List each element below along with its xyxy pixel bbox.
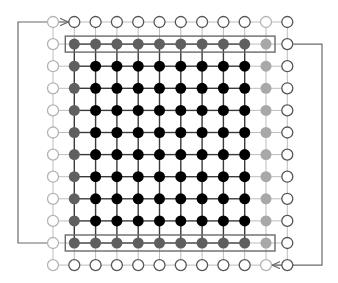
ghost-node bbox=[218, 17, 229, 28]
interior-node bbox=[197, 149, 208, 160]
ghost-node bbox=[197, 260, 208, 271]
interior-node bbox=[175, 193, 186, 204]
ghost-node-light bbox=[48, 61, 59, 72]
interior-node bbox=[133, 149, 144, 160]
ghost-node bbox=[282, 61, 293, 72]
ghost-node-light bbox=[48, 238, 59, 249]
boundary-node bbox=[218, 39, 229, 50]
boundary-node bbox=[175, 238, 186, 249]
interior-node bbox=[239, 193, 250, 204]
interior-node bbox=[197, 171, 208, 182]
ghost-node bbox=[282, 193, 293, 204]
boundary-node bbox=[69, 127, 80, 138]
edge-boundary-node bbox=[261, 193, 272, 204]
boundary-node bbox=[197, 238, 208, 249]
ghost-node-light bbox=[261, 17, 272, 28]
ghost-node-light bbox=[48, 17, 59, 28]
ghost-node bbox=[282, 149, 293, 160]
ghost-node bbox=[111, 260, 122, 271]
interior-node bbox=[239, 61, 250, 72]
ghost-node bbox=[282, 17, 293, 28]
edge-boundary-node bbox=[261, 105, 272, 116]
ghost-node-light bbox=[48, 193, 59, 204]
interior-node bbox=[239, 105, 250, 116]
interior-node bbox=[218, 149, 229, 160]
interior-node bbox=[175, 149, 186, 160]
interior-node bbox=[90, 149, 101, 160]
interior-node bbox=[133, 83, 144, 94]
interior-node bbox=[133, 171, 144, 182]
interior-node bbox=[175, 215, 186, 226]
ghost-node-light bbox=[48, 83, 59, 94]
interior-node bbox=[133, 215, 144, 226]
ghost-node bbox=[69, 260, 80, 271]
boundary-node bbox=[154, 39, 165, 50]
ghost-node bbox=[282, 215, 293, 226]
interior-node bbox=[154, 61, 165, 72]
interior-node bbox=[218, 127, 229, 138]
interior-node bbox=[111, 215, 122, 226]
interior-node bbox=[239, 83, 250, 94]
ghost-node bbox=[282, 171, 293, 182]
ghost-node bbox=[175, 17, 186, 28]
interior-node bbox=[90, 61, 101, 72]
interior-node bbox=[111, 149, 122, 160]
ghost-node bbox=[239, 17, 250, 28]
edge-boundary-node bbox=[261, 238, 272, 249]
wrap-arrows bbox=[18, 22, 322, 265]
interior-node bbox=[239, 171, 250, 182]
interior-node bbox=[90, 171, 101, 182]
ghost-node bbox=[218, 260, 229, 271]
ghost-node bbox=[282, 260, 293, 271]
ghost-node-light bbox=[48, 127, 59, 138]
boundary-node bbox=[69, 149, 80, 160]
interior-node bbox=[197, 127, 208, 138]
interior-node bbox=[218, 171, 229, 182]
interior-node bbox=[133, 105, 144, 116]
interior-node bbox=[197, 215, 208, 226]
ghost-node bbox=[282, 238, 293, 249]
boundary-node bbox=[69, 193, 80, 204]
interior-node bbox=[175, 105, 186, 116]
boundary-node bbox=[239, 238, 250, 249]
ghost-node-light bbox=[261, 260, 272, 271]
ghost-node-light bbox=[48, 215, 59, 226]
boundary-node bbox=[239, 39, 250, 50]
interior-node bbox=[90, 127, 101, 138]
interior-node bbox=[239, 215, 250, 226]
ghost-node bbox=[90, 260, 101, 271]
edge-boundary-node bbox=[261, 61, 272, 72]
interior-node bbox=[218, 215, 229, 226]
ghost-node bbox=[197, 17, 208, 28]
interior-node bbox=[218, 193, 229, 204]
edge-boundary-node bbox=[261, 83, 272, 94]
ghost-node-light bbox=[48, 149, 59, 160]
ghost-node bbox=[282, 39, 293, 50]
grid-nodes bbox=[48, 17, 293, 271]
interior-node bbox=[111, 83, 122, 94]
interior-node bbox=[111, 127, 122, 138]
ghost-node bbox=[282, 83, 293, 94]
boundary-node bbox=[175, 39, 186, 50]
interior-node bbox=[90, 193, 101, 204]
grid-lines bbox=[53, 22, 287, 265]
interior-node bbox=[154, 127, 165, 138]
interior-node bbox=[90, 105, 101, 116]
interior-node bbox=[197, 105, 208, 116]
ghost-node-light bbox=[48, 39, 59, 50]
interior-node bbox=[218, 83, 229, 94]
boundary-node bbox=[69, 215, 80, 226]
interior-node bbox=[154, 171, 165, 182]
interior-node bbox=[111, 61, 122, 72]
interior-node bbox=[133, 61, 144, 72]
boundary-node bbox=[133, 39, 144, 50]
boundary-node bbox=[218, 238, 229, 249]
ghost-node bbox=[133, 17, 144, 28]
ghost-node bbox=[282, 127, 293, 138]
interior-node bbox=[111, 193, 122, 204]
interior-node bbox=[197, 193, 208, 204]
interior-node bbox=[175, 83, 186, 94]
boundary-node bbox=[133, 238, 144, 249]
ghost-node-light bbox=[48, 105, 59, 116]
interior-node bbox=[154, 83, 165, 94]
